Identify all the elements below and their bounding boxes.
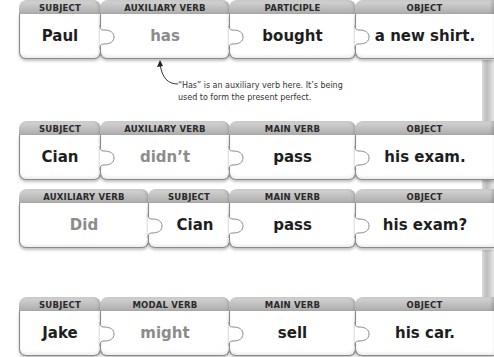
piece-word: bought [229,14,356,59]
puzzle-piece-main-verb: MAIN VERB pass [229,189,356,249]
right-rail-3 [482,250,494,300]
puzzle-piece-object: OBJECT his exam? [355,189,494,249]
piece-label: OBJECT [355,121,494,136]
puzzle-knob-icon [354,214,370,238]
puzzle-piece-subject: SUBJECT Cian [148,189,230,249]
sentence-row-2: SUBJECT Cian AUXILIARY VERB didn’t MAIN … [0,121,494,181]
annotation-line-1: “Has” is an auxiliary verb here. It’s be… [178,80,398,92]
puzzle-piece-subject: SUBJECT Jake [19,297,101,357]
puzzle-piece-modal-verb: MODAL VERB might [100,297,230,357]
piece-label: MODAL VERB [100,297,230,312]
piece-word: has [100,14,230,59]
puzzle-knob-icon [99,322,115,346]
piece-word: Did [19,203,149,248]
piece-word: Jake [19,311,101,356]
piece-label: OBJECT [355,0,494,15]
piece-word: Cian [19,135,101,180]
piece-word: a new shirt. [355,14,494,59]
piece-label: AUXILIARY VERB [100,0,230,15]
piece-label: SUBJECT [19,121,101,136]
piece-label: MAIN VERB [229,189,356,204]
puzzle-knob-icon [99,25,115,49]
piece-word: might [100,311,230,356]
puzzle-piece-object: OBJECT a new shirt. [355,0,494,60]
piece-label: SUBJECT [148,189,230,204]
piece-label: PARTICIPLE [229,0,356,15]
puzzle-piece-participle: PARTICIPLE bought [229,0,356,60]
annotation-note: “Has” is an auxiliary verb here. It’s be… [178,80,398,104]
puzzle-piece-auxiliary-verb: AUXILIARY VERB didn’t [100,121,230,181]
puzzle-piece-subject: SUBJECT Cian [19,121,101,181]
piece-word: his exam. [355,135,494,180]
puzzle-knob-icon [354,25,370,49]
puzzle-knob-icon [354,322,370,346]
puzzle-piece-object: OBJECT his exam. [355,121,494,181]
puzzle-knob-icon [99,146,115,170]
sentence-row-4: SUBJECT Jake MODAL VERB might MAIN VERB … [0,297,494,357]
puzzle-knob-icon [228,322,244,346]
puzzle-piece-main-verb: MAIN VERB pass [229,121,356,181]
piece-label: MAIN VERB [229,121,356,136]
sentence-row-3: AUXILIARY VERB Did SUBJECT Cian MAIN VER… [0,189,494,249]
piece-label: OBJECT [355,297,494,312]
piece-word: pass [229,135,356,180]
piece-word: pass [229,203,356,248]
piece-label: SUBJECT [19,0,101,15]
right-rail-1 [482,60,494,124]
piece-word: his exam? [355,203,494,248]
piece-label: AUXILIARY VERB [19,189,149,204]
puzzle-piece-subject: SUBJECT Paul [19,0,101,60]
piece-word: his car. [355,311,494,356]
sentence-row-1: SUBJECT Paul AUXILIARY VERB has PARTICIP… [0,0,494,60]
puzzle-knob-icon [228,214,244,238]
piece-word: sell [229,311,356,356]
puzzle-knob-icon [147,214,163,238]
puzzle-piece-object: OBJECT his car. [355,297,494,357]
puzzle-knob-icon [228,25,244,49]
piece-label: MAIN VERB [229,297,356,312]
annotation-line-2: used to form the present perfect. [178,92,398,104]
piece-label: SUBJECT [19,297,101,312]
puzzle-knob-icon [354,146,370,170]
puzzle-knob-icon [228,146,244,170]
puzzle-piece-main-verb: MAIN VERB sell [229,297,356,357]
piece-label: OBJECT [355,189,494,204]
piece-label: AUXILIARY VERB [100,121,230,136]
puzzle-piece-auxiliary-verb: AUXILIARY VERB has [100,0,230,60]
puzzle-piece-auxiliary-verb: AUXILIARY VERB Did [19,189,149,249]
piece-word: Paul [19,14,101,59]
piece-word: didn’t [100,135,230,180]
